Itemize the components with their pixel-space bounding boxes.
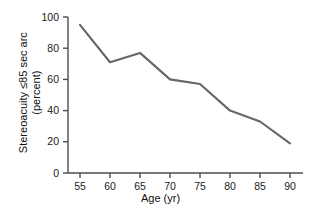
chart-screenshot: 020406080100 5560657075808590 Stereoacui…: [0, 0, 321, 214]
x-axis-ticks: [80, 173, 290, 178]
stereoacuity-vs-age-figure: 020406080100 5560657075808590 Stereoacui…: [0, 0, 321, 214]
x-axis: [68, 173, 303, 178]
y-axis-title-line-1: Stereoacuity ≤85 sec arc: [17, 32, 29, 153]
x-axis-title: Age (yr): [0, 192, 321, 204]
x-tick-label: 55: [67, 181, 93, 192]
x-tick-label: 70: [157, 181, 183, 192]
y-axis-title-line-2: (percent): [30, 3, 43, 183]
y-axis-ticks: [63, 17, 68, 173]
x-tick-label: 90: [277, 181, 303, 192]
x-tick-label: 85: [247, 181, 273, 192]
x-tick-label: 60: [97, 181, 123, 192]
data-series-line: [80, 25, 290, 144]
y-axis-title: Stereoacuity ≤85 sec arc (percent): [17, 3, 42, 183]
x-tick-label: 65: [127, 181, 153, 192]
y-axis: [63, 17, 68, 173]
x-tick-label: 80: [217, 181, 243, 192]
x-tick-label: 75: [187, 181, 213, 192]
